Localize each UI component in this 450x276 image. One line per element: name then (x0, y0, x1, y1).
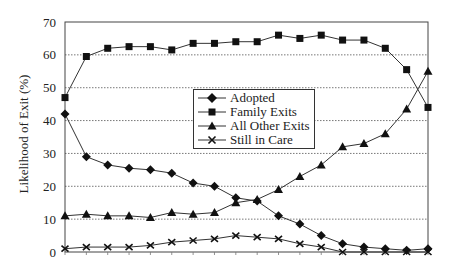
square-marker (126, 43, 133, 50)
square-marker (318, 32, 325, 39)
y-tick-label: 20 (43, 179, 56, 194)
square-marker (83, 53, 90, 60)
diamond-marker (210, 182, 219, 191)
triangle-marker (82, 210, 91, 218)
square-marker (403, 66, 410, 73)
y-tick-label: 10 (43, 212, 56, 227)
square-marker (190, 40, 197, 47)
square-marker (168, 46, 175, 53)
square-marker (104, 45, 111, 52)
diamond-marker (103, 160, 112, 169)
square-marker (296, 35, 303, 42)
triangle-marker (402, 105, 411, 113)
y-tick-label: 60 (43, 47, 56, 62)
y-tick-label: 40 (43, 113, 56, 128)
square-marker (382, 45, 389, 52)
triangle-marker (359, 139, 368, 147)
diamond-marker (125, 164, 134, 173)
square-marker (254, 38, 261, 45)
triangle-marker (167, 208, 176, 216)
diamond-marker (338, 239, 347, 248)
square-marker (360, 37, 367, 44)
legend-item-adopted: Adopted (198, 91, 314, 105)
square-marker (232, 38, 239, 45)
square-marker-icon (198, 105, 226, 119)
legend: Adopted Family Exits All Other Exits Sti… (193, 89, 315, 149)
y-axis-label: Likelihood of Exit (%) (16, 54, 32, 214)
y-tick-label: 30 (43, 146, 56, 161)
legend-label: Family Exits (230, 105, 297, 119)
triangle-marker (210, 208, 219, 216)
square-marker (211, 40, 218, 47)
diamond-marker (189, 179, 198, 188)
legend-item-all-other-exits: All Other Exits (198, 119, 314, 133)
legend-label: Still in Care (230, 133, 293, 147)
square-marker (275, 32, 282, 39)
triangle-marker (295, 172, 304, 180)
square-marker (339, 37, 346, 44)
diamond-marker (167, 169, 176, 178)
y-tick-label: 70 (43, 15, 56, 30)
triangle-marker-icon (198, 119, 226, 133)
diamond-marker-icon (198, 91, 226, 105)
triangle-marker (253, 195, 262, 203)
legend-item-family-exits: Family Exits (198, 105, 314, 119)
square-marker (147, 43, 154, 50)
triangle-marker (424, 67, 433, 75)
legend-label: Adopted (230, 91, 275, 105)
diamond-marker (146, 165, 155, 174)
diamond-marker (61, 110, 70, 119)
y-tick-label: 50 (43, 80, 56, 95)
diamond-marker (317, 231, 326, 240)
y-tick-label: 0 (50, 245, 57, 260)
legend-item-still-in-care: Still in Care (198, 133, 314, 147)
square-marker (425, 104, 432, 111)
x-marker-icon (198, 133, 226, 147)
diamond-marker (402, 246, 411, 255)
legend-label: All Other Exits (230, 119, 309, 133)
square-marker (62, 94, 69, 101)
diamond-marker (295, 220, 304, 229)
series-line-still-in-care (65, 236, 428, 252)
